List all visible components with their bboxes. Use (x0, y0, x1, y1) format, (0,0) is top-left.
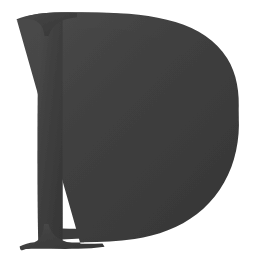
letter-d-stem (37, 15, 62, 245)
letter-specimen-canvas: Large serif capital letter D in dark gra… (0, 0, 266, 267)
letter-d-glyph: Large serif capital letter D in dark gra… (0, 0, 266, 267)
glyph-stage: Large serif capital letter D in dark gra… (0, 0, 266, 267)
